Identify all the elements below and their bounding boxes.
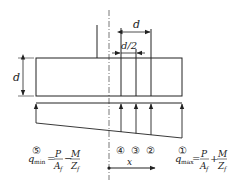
svg-text:f: f (205, 165, 210, 173)
marker-4: ④ (116, 145, 125, 156)
svg-text:P: P (54, 149, 62, 159)
svg-text:P: P (200, 149, 208, 159)
svg-text:f: f (223, 165, 228, 173)
label-d-top: d (133, 18, 140, 31)
svg-text:M: M (70, 149, 81, 159)
svg-text:min: min (34, 158, 46, 165)
marker-2: ② (146, 145, 155, 156)
label-thickness-d: d (13, 71, 20, 84)
diagram-canvas: d d/2 d ⑤ ④ ③ ② ① q min = P A f − M Z f … (0, 0, 241, 184)
svg-text:f: f (76, 165, 81, 173)
svg-text:f: f (59, 165, 64, 173)
svg-text:M: M (217, 149, 228, 159)
marker-3: ③ (131, 145, 140, 156)
label-half-d: d/2 (121, 40, 137, 51)
label-x: x (127, 157, 132, 167)
